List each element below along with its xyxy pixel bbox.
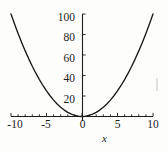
- chart-figure: 100 80 60 40 20 -10 -5 0 5 10 x: [0, 0, 167, 151]
- y-tick-label-100: 100: [58, 12, 75, 24]
- x-axis-label: x: [102, 133, 107, 144]
- y-tick-label-60: 60: [64, 53, 76, 65]
- y-tick-label-80: 80: [64, 32, 76, 44]
- x-tick-label-neg5: -5: [35, 119, 57, 131]
- scan-artifact-mark: [156, 78, 158, 91]
- x-tick-label-0: 0: [73, 119, 92, 131]
- y-tick-label-40: 40: [64, 73, 76, 85]
- x-tick-label-neg10: -10: [2, 119, 28, 131]
- y-tick-label-20: 20: [64, 94, 76, 106]
- x-tick-label-5: 5: [108, 119, 127, 131]
- x-tick-label-10: 10: [142, 119, 164, 131]
